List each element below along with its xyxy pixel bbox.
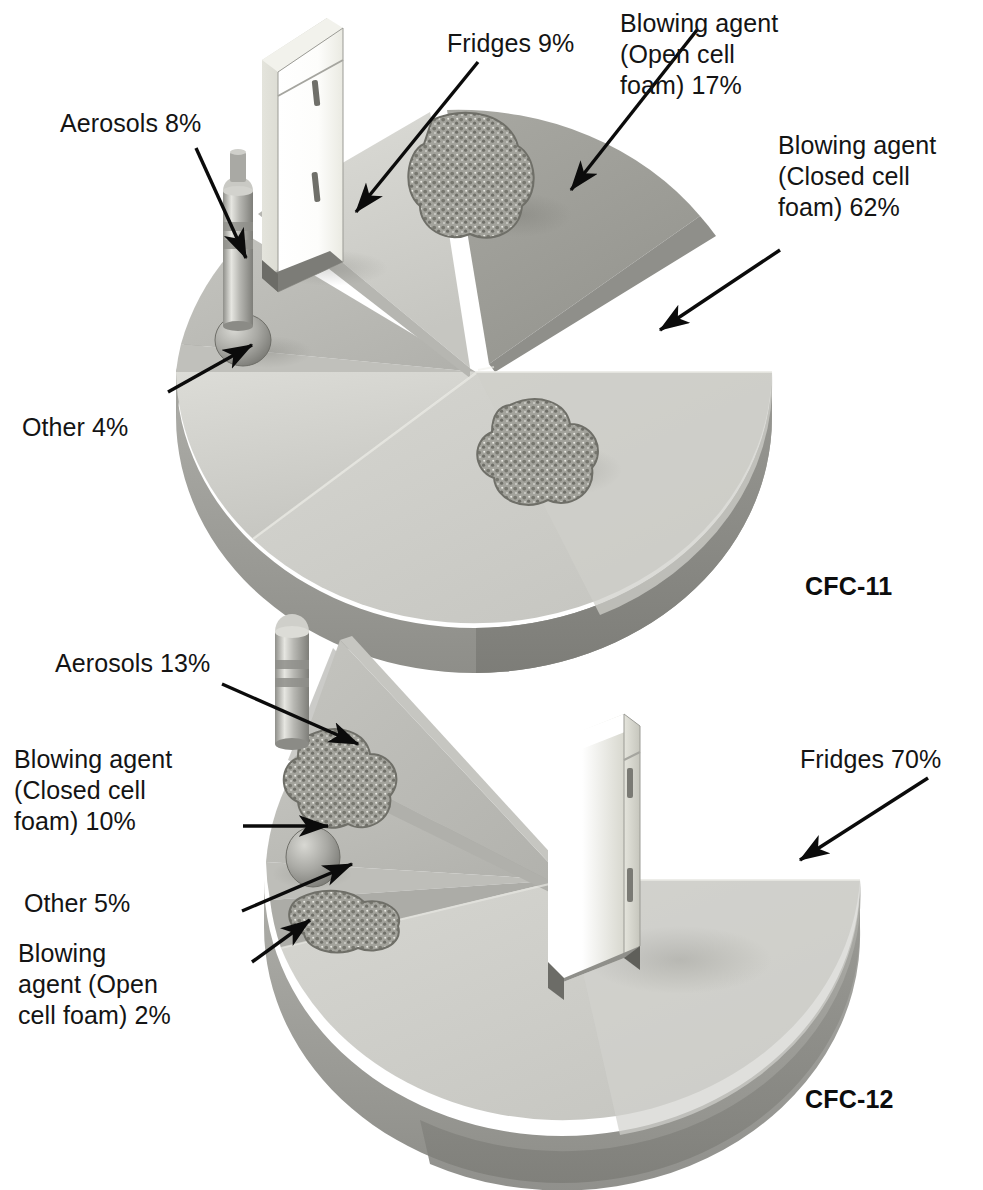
label-aerosols-13: Aerosols 13%	[55, 648, 210, 679]
arrow-fridges-70	[800, 778, 928, 860]
label-other-5: Other 5%	[24, 888, 130, 919]
label-closed-cell-62: Blowing agent (Closed cell foam) 62%	[778, 130, 936, 223]
label-fridges-70: Fridges 70%	[800, 744, 941, 775]
figure-canvas: Aerosols 8% Fridges 9% Blowing agent (Op…	[0, 0, 983, 1190]
fridge-icon	[262, 18, 343, 292]
label-open-cell-17: Blowing agent (Open cell foam) 17%	[620, 8, 778, 101]
label-aerosols-8: Aerosols 8%	[60, 108, 201, 139]
label-open-cell-2: Blowing agent (Open cell foam) 2%	[18, 938, 171, 1031]
label-fridges-9: Fridges 9%	[447, 28, 574, 59]
arrow-closed-cell-62	[660, 250, 780, 330]
spray-can-icon	[275, 614, 309, 750]
pie-chart-cfc-12	[264, 614, 861, 1190]
chart-caption-cfc-12: CFC-12	[805, 1085, 894, 1114]
fridge-icon	[548, 714, 640, 1000]
pie-chart-cfc-11	[176, 18, 772, 673]
chart-caption-cfc-11: CFC-11	[805, 572, 892, 601]
sphere-icon	[286, 827, 340, 887]
label-other-4: Other 4%	[22, 412, 128, 443]
label-closed-cell-10: Blowing agent (Closed cell foam) 10%	[14, 744, 172, 837]
